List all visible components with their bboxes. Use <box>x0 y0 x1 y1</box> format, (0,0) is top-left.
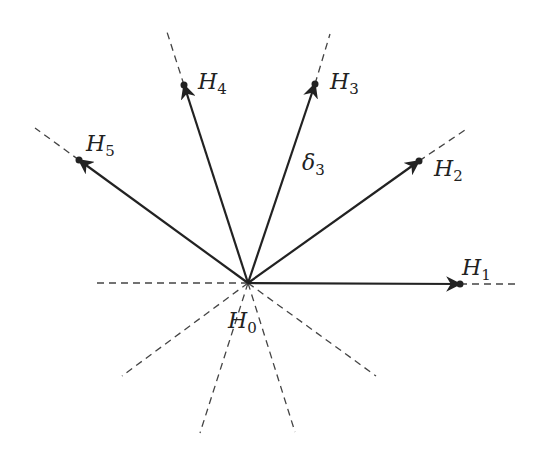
point-dots <box>76 81 464 288</box>
dashed-extension-3 <box>315 34 330 84</box>
dot-h1 <box>457 281 464 288</box>
dashed-ray-5 <box>248 283 376 376</box>
label-h5: H5 <box>85 131 115 160</box>
dashed-lines <box>35 32 516 433</box>
dashed-ray-3 <box>200 283 248 433</box>
label-h2: H2 <box>433 156 463 185</box>
arrows <box>79 84 460 284</box>
arrow-h4 <box>184 85 248 283</box>
dashed-extension-5 <box>35 128 79 160</box>
point-labels: H1H2H3H4H5H0δ3 <box>85 69 491 337</box>
label-h0: H0 <box>227 308 257 337</box>
arrow-h5 <box>79 160 248 283</box>
dot-h2 <box>416 158 423 165</box>
dot-h4 <box>181 82 188 89</box>
arrow-h2 <box>248 161 419 283</box>
dashed-ray-4 <box>248 283 295 432</box>
label-h3: H3 <box>329 69 359 98</box>
label-h4: H4 <box>197 69 227 98</box>
dashed-extension-4 <box>167 32 184 85</box>
label-delta3: δ3 <box>302 150 325 179</box>
arrow-h1 <box>248 283 460 284</box>
label-h1: H1 <box>461 255 491 284</box>
hyperplane-arrangement-diagram: H1H2H3H4H5H0δ3 <box>0 0 538 459</box>
dot-h5 <box>76 157 83 164</box>
dot-h3 <box>312 81 319 88</box>
arrow-h3 <box>248 84 315 283</box>
